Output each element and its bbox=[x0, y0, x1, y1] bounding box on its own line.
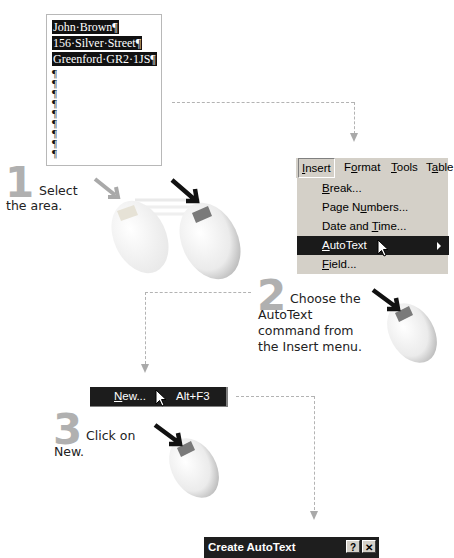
connector-line bbox=[354, 102, 355, 134]
arrow-icon bbox=[172, 180, 197, 201]
menu-item-autotext[interactable]: AutoText bbox=[297, 236, 449, 255]
step-text: New. bbox=[54, 444, 84, 460]
connector-line bbox=[145, 292, 146, 364]
step-text: the area. bbox=[6, 198, 62, 214]
menu-table[interactable]: Table bbox=[426, 161, 454, 173]
arrow-down-icon bbox=[141, 364, 149, 373]
menu-item-break[interactable]: Break... bbox=[297, 179, 449, 198]
connector-line bbox=[172, 102, 354, 103]
shortcut-label: Alt+F3 bbox=[176, 390, 210, 402]
mouse-icon bbox=[159, 429, 229, 500]
insert-menu: Break... Page Numbers... Date and Time..… bbox=[296, 178, 448, 274]
help-button[interactable]: ? bbox=[346, 540, 360, 553]
mouse-pointer-icon bbox=[155, 389, 169, 409]
arrow-down-icon bbox=[310, 511, 318, 520]
connector-line bbox=[236, 396, 314, 397]
mouse-icon bbox=[377, 294, 447, 365]
document-snippet[interactable]: John·Brown¶ 156·Silver·Street¶ Greenford… bbox=[46, 14, 162, 166]
connector-line bbox=[314, 396, 315, 510]
menu-bar: Insert Format Tools Table bbox=[296, 158, 448, 178]
selected-text-line: Greenford·GR2·1JS¶ bbox=[52, 52, 157, 66]
step-text: the Insert menu. bbox=[258, 339, 362, 355]
step-text: command from bbox=[258, 323, 353, 339]
step-number: 1 bbox=[5, 163, 34, 203]
paragraph-mark: ¶ bbox=[52, 149, 57, 158]
menu-format[interactable]: Format bbox=[344, 161, 380, 173]
step-text: Choose the bbox=[290, 291, 361, 307]
mouse-pointer-icon bbox=[377, 239, 391, 259]
step-text: Select bbox=[39, 183, 78, 199]
mouse-click-illustration bbox=[368, 285, 448, 365]
menu-insert[interactable]: Insert bbox=[298, 158, 335, 178]
menu-item-field[interactable]: Field... bbox=[297, 255, 449, 274]
close-button[interactable]: ✕ bbox=[362, 540, 376, 553]
step-text: AutoText bbox=[258, 307, 312, 323]
selected-text-line: John·Brown¶ bbox=[52, 20, 119, 34]
selected-text-line: 156·Silver·Street¶ bbox=[52, 36, 142, 50]
dialog-title: Create AutoText bbox=[208, 541, 296, 553]
menu-item-page-numbers[interactable]: Page Numbers... bbox=[297, 198, 449, 217]
mouse-click-illustration bbox=[150, 420, 230, 500]
menu-tools[interactable]: Tools bbox=[391, 161, 418, 173]
submenu-arrow-icon bbox=[437, 242, 441, 250]
step-text: Click on bbox=[86, 428, 135, 444]
dialog-title-bar[interactable]: Create AutoText ? ✕ bbox=[204, 537, 379, 558]
arrow-down-icon bbox=[350, 133, 358, 142]
mouse-click-illustration bbox=[90, 175, 250, 285]
arrow-icon bbox=[95, 179, 118, 197]
menu-item-date-time[interactable]: Date and Time... bbox=[297, 217, 449, 236]
arrow-icon bbox=[155, 425, 180, 444]
connector-line bbox=[145, 292, 251, 293]
mouse-ghost-icon bbox=[100, 192, 179, 283]
arrow-icon bbox=[373, 290, 398, 309]
